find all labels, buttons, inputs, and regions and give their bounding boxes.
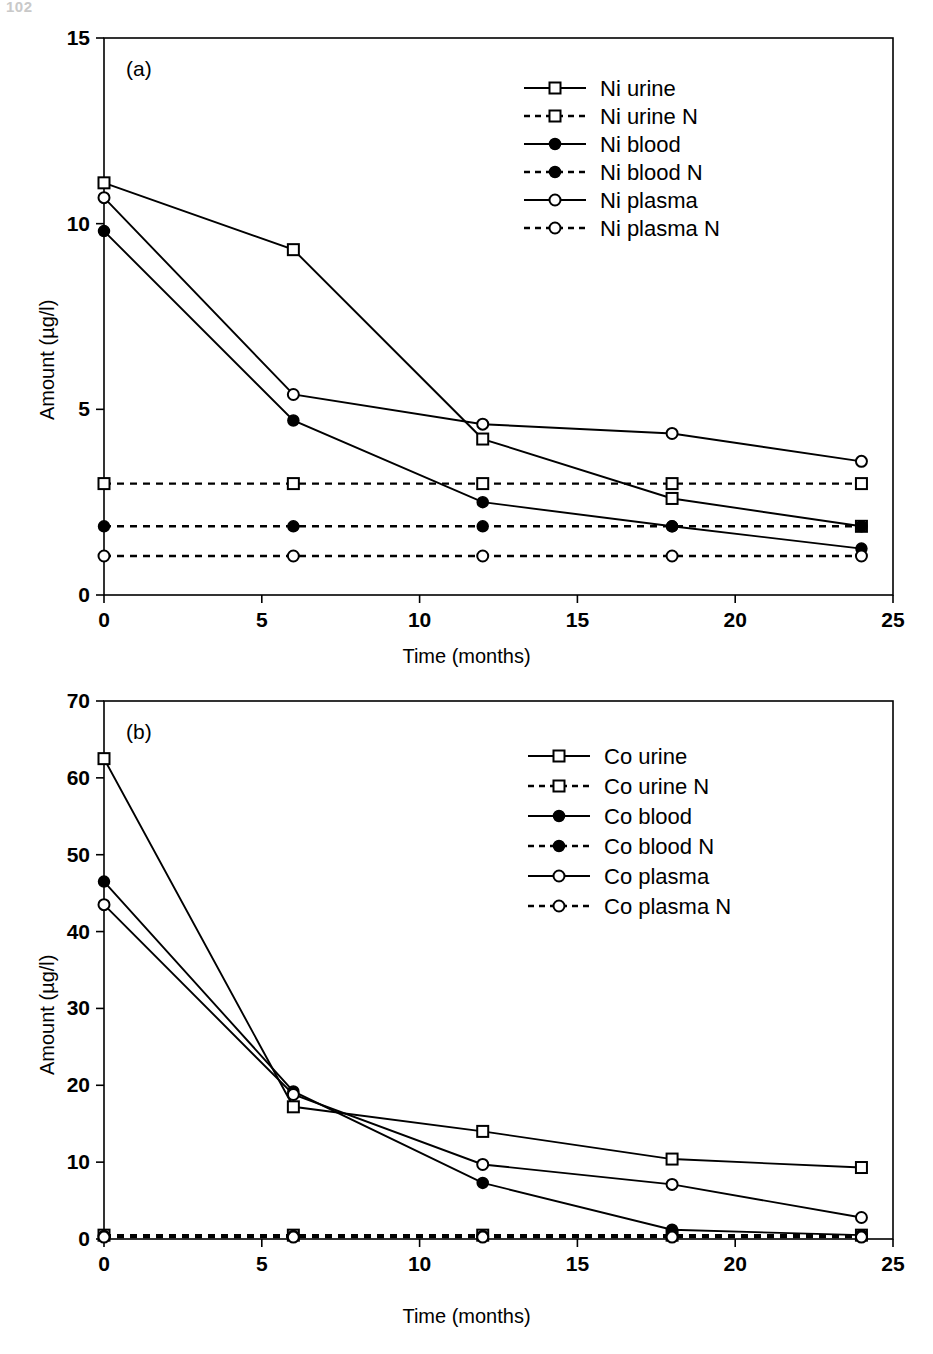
marker-filled-circle [477,497,488,508]
y-tick-label: 30 [67,996,90,1019]
series-ni-urine-n [99,478,867,489]
marker-open-circle [554,901,565,912]
y-axis: 051015 [67,26,104,606]
x-tick-label: 25 [881,608,905,631]
marker-open-circle [477,1232,488,1243]
marker-open-circle [667,1232,678,1243]
marker-filled-circle [477,521,488,532]
marker-filled-circle [667,521,678,532]
x-tick-label: 15 [566,1252,590,1275]
legend-label: Co plasma N [604,894,731,919]
x-tick-label: 15 [566,608,590,631]
series-co-blood [99,876,867,1241]
y-axis-label-b: Amount (µg/l) [36,955,59,1075]
x-axis-label-b: Time (months) [0,1305,933,1328]
y-tick-label: 50 [67,843,90,866]
legend-item[interactable]: Ni blood [524,132,681,157]
y-axis: 010203040506070 [67,689,104,1250]
legend-label: Ni plasma N [600,216,720,241]
marker-filled-circle [554,841,565,852]
marker-open-circle [288,1089,299,1100]
marker-open-circle [667,1179,678,1190]
y-tick-label: 15 [67,26,91,49]
legend-item[interactable]: Co urine N [528,774,709,799]
x-tick-label: 25 [881,1252,905,1275]
marker-open-square [288,244,299,255]
marker-open-circle [856,551,867,562]
legend-item[interactable]: Co blood N [528,834,714,859]
x-tick-label: 10 [408,608,431,631]
legend-label: Ni plasma [600,188,699,213]
series-line [104,183,861,526]
y-tick-label: 70 [67,689,90,712]
plot-border [104,701,893,1239]
marker-open-circle [550,223,561,234]
marker-open-circle [856,456,867,467]
legend-item[interactable]: Ni blood N [524,160,703,185]
legend-label: Ni urine [600,76,676,101]
chart-panel-a: 0510150510152025(a)Ni urineNi urine NNi … [0,0,933,690]
marker-open-square [477,1126,488,1137]
legend-label: Co plasma [604,864,710,889]
marker-open-circle [99,551,110,562]
series-co-plasma-n [99,1232,867,1243]
series-co-urine [99,753,867,1173]
marker-filled-circle [550,167,561,178]
legend-item[interactable]: Co plasma [528,864,710,889]
legend-item[interactable]: Ni urine [524,76,676,101]
legend-label: Co blood N [604,834,714,859]
legend-label: Ni blood N [600,160,703,185]
x-tick-label: 20 [724,608,747,631]
marker-open-square [99,478,110,489]
series-ni-blood-n [99,521,867,532]
marker-open-square [667,478,678,489]
panel-tag: (b) [126,720,152,743]
legend: Co urineCo urine NCo bloodCo blood NCo p… [528,744,731,919]
marker-open-circle [667,428,678,439]
y-tick-label: 40 [67,920,90,943]
marker-filled-circle [288,415,299,426]
marker-open-circle [477,419,488,430]
marker-filled-circle [856,521,867,532]
marker-open-circle [856,1232,867,1243]
series-co-plasma [99,899,867,1223]
legend-item[interactable]: Co urine [528,744,687,769]
marker-open-circle [99,192,110,203]
marker-filled-circle [477,1177,488,1188]
marker-open-square [554,751,565,762]
marker-open-square [554,781,565,792]
legend-item[interactable]: Ni plasma [524,188,699,213]
y-tick-label: 5 [78,397,90,420]
legend-item[interactable]: Co plasma N [528,894,731,919]
marker-open-square [477,434,488,445]
x-tick-label: 0 [98,1252,110,1275]
x-axis: 0510152025 [98,1239,905,1275]
y-axis-label-a: Amount (µg/l) [36,300,59,420]
legend-item[interactable]: Ni urine N [524,104,698,129]
x-tick-label: 20 [724,1252,747,1275]
legend-label: Co urine [604,744,687,769]
legend-label: Ni urine N [600,104,698,129]
marker-open-square [288,1101,299,1112]
marker-open-circle [288,1232,299,1243]
x-tick-label: 0 [98,608,110,631]
marker-open-circle [288,551,299,562]
marker-open-circle [856,1212,867,1223]
marker-filled-circle [288,521,299,532]
marker-open-circle [99,1232,110,1243]
y-tick-label: 20 [67,1073,90,1096]
legend: Ni urineNi urine NNi bloodNi blood NNi p… [524,76,720,241]
legend-item[interactable]: Co blood [528,804,692,829]
marker-filled-circle [554,811,565,822]
marker-open-square [550,83,561,94]
legend-item[interactable]: Ni plasma N [524,216,720,241]
legend-label: Co blood [604,804,692,829]
marker-filled-circle [99,876,110,887]
marker-open-square [550,111,561,122]
plot-border [104,38,893,595]
series-ni-blood [99,226,867,554]
marker-open-circle [477,551,488,562]
marker-open-circle [99,899,110,910]
marker-open-circle [477,1159,488,1170]
marker-open-square [288,478,299,489]
